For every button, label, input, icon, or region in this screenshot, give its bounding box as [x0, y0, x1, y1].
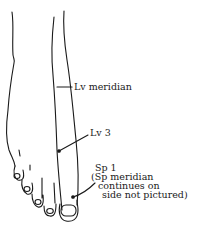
big-toe: [59, 200, 78, 221]
lv3-point: [58, 150, 61, 153]
lv-meridian-label: Lv meridian: [74, 82, 132, 92]
leg-line-middle: [52, 17, 62, 210]
toenail-2: [47, 209, 54, 214]
toe-3: [32, 178, 43, 207]
sp1-note-line3: side not pictured): [102, 190, 188, 200]
toe-5: [14, 150, 24, 180]
big-toenail: [61, 205, 76, 216]
sp1-point: [72, 196, 75, 199]
toe-4: [22, 165, 33, 194]
sp1-leader: [73, 183, 95, 197]
toenail-4: [24, 187, 30, 192]
foot-outline-left: [7, 12, 15, 166]
toenail-3: [35, 200, 41, 205]
leg-line-right: [64, 11, 78, 205]
lv3-leader: [59, 135, 88, 151]
lv3-label: Lv 3: [90, 128, 111, 138]
toe-2: [44, 183, 56, 216]
